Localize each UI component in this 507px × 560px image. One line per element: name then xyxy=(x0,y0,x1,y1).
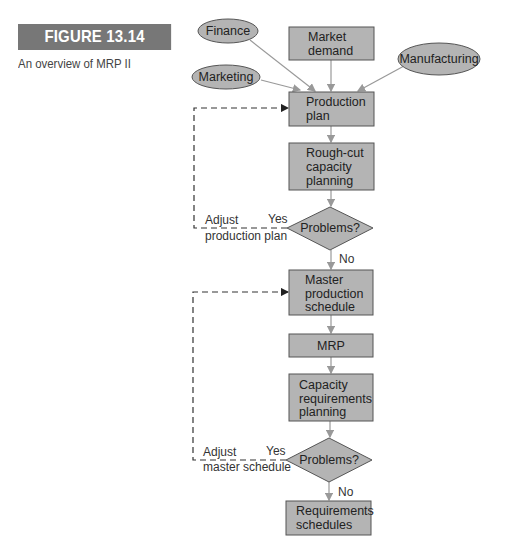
market-demand-node: Market demand xyxy=(289,27,374,60)
svg-text:schedule: schedule xyxy=(305,300,355,314)
master-production-schedule-node: Master production schedule xyxy=(289,270,373,315)
svg-text:plan: plan xyxy=(306,109,330,123)
svg-text:Adjust: Adjust xyxy=(205,213,239,227)
svg-text:Yes: Yes xyxy=(268,212,288,226)
svg-text:Finance: Finance xyxy=(206,24,251,38)
svg-text:master schedule: master schedule xyxy=(203,460,291,474)
feedback-loop-master-schedule xyxy=(193,292,288,460)
capacity-requirements-node: Capacity requirements planning xyxy=(289,374,373,421)
svg-text:MRP: MRP xyxy=(317,339,345,353)
mrp-node: MRP xyxy=(289,334,373,357)
manufacturing-node: Manufacturing xyxy=(398,43,480,75)
svg-text:Capacity: Capacity xyxy=(299,378,348,392)
svg-text:Problems?: Problems? xyxy=(300,221,360,235)
finance-node: Finance xyxy=(198,19,258,43)
svg-text:production: production xyxy=(305,287,363,301)
requirements-schedules-node: Requirements schedules xyxy=(286,501,374,535)
svg-text:production plan: production plan xyxy=(205,229,287,243)
svg-text:Problems?: Problems? xyxy=(299,453,359,467)
rough-cut-capacity-node: Rough-cut capacity planning xyxy=(289,143,374,190)
svg-text:Adjust: Adjust xyxy=(203,445,237,459)
svg-text:Yes: Yes xyxy=(266,444,286,458)
mrp-flowchart: Finance Marketing Manufacturing Market d… xyxy=(0,0,507,560)
svg-text:No: No xyxy=(339,252,355,266)
svg-text:schedules: schedules xyxy=(296,518,352,532)
decision-problems-2: Problems? xyxy=(286,438,372,482)
svg-text:No: No xyxy=(338,485,354,499)
svg-text:Master: Master xyxy=(305,273,343,287)
feedback-loop-production-plan xyxy=(194,108,288,228)
svg-text:Production: Production xyxy=(306,95,366,109)
svg-text:Requirements: Requirements xyxy=(296,504,374,518)
svg-text:Rough-cut: Rough-cut xyxy=(306,146,364,160)
svg-text:capacity: capacity xyxy=(306,160,353,174)
production-plan-node: Production plan xyxy=(289,92,374,126)
svg-text:Market: Market xyxy=(308,30,347,44)
svg-text:demand: demand xyxy=(308,44,353,58)
svg-text:Manufacturing: Manufacturing xyxy=(399,52,478,66)
svg-text:planning: planning xyxy=(299,405,346,419)
svg-text:Marketing: Marketing xyxy=(199,70,254,84)
svg-text:planning: planning xyxy=(306,174,353,188)
marketing-node: Marketing xyxy=(192,65,260,89)
svg-text:requirements: requirements xyxy=(299,392,372,406)
decision-problems-1: Problems? xyxy=(287,207,373,250)
